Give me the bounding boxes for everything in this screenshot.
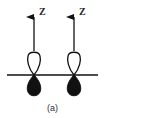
p-orbital-1: Z (27, 6, 46, 96)
filled-lobe-1 (27, 75, 41, 96)
p-orbital-2: Z (67, 6, 86, 96)
z-label-2: Z (79, 6, 86, 17)
figure-caption: (a) (47, 103, 58, 113)
filled-lobe-2 (67, 75, 81, 96)
z-label-1: Z (39, 6, 46, 17)
open-lobe-1 (28, 52, 41, 75)
open-lobe-2 (68, 52, 81, 75)
p-orbital-diagram: Z Z (a) (0, 0, 156, 118)
